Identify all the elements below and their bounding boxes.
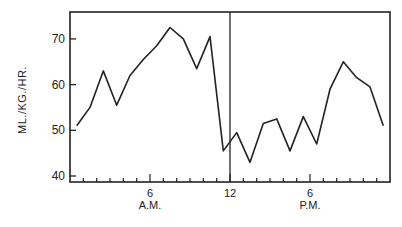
svg-text:A.M.: A.M. [139,199,162,211]
y-tick-label: 50 [52,123,66,137]
svg-text:P.M.: P.M. [299,199,320,211]
y-tick-label: 40 [52,169,66,183]
svg-text:6: 6 [147,187,153,199]
y-axis: 40506070 [52,32,76,183]
y-tick-label: 70 [52,32,66,46]
y-axis-label: ML./KG./HR. [16,66,28,134]
chart-canvas: 40506070 6A.M.126P.M. [0,0,402,227]
svg-text:12: 12 [224,187,236,199]
y-tick-label: 60 [52,78,66,92]
svg-text:6: 6 [307,187,313,199]
